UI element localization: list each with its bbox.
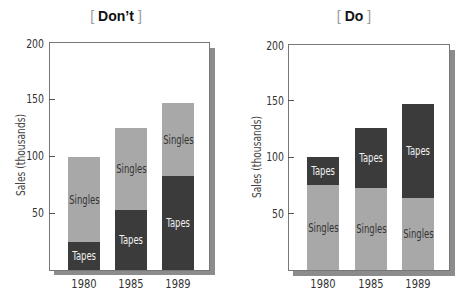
segment-tapes: Tapes (307, 157, 339, 185)
segment-singles: Singles (402, 198, 434, 270)
bar-1980: Singles Tapes (68, 157, 100, 270)
y-tick-150: 150 (20, 92, 44, 106)
y-tick-mark (288, 213, 294, 214)
y-tick-150: 150 (260, 94, 284, 108)
chart-dont: [Don’t] Sales (thousands) 200 150 100 50… (0, 0, 232, 301)
bar-1989: Singles Tapes (162, 103, 194, 270)
y-tick-mark (49, 99, 55, 100)
bar-1985: Tapes Singles (355, 128, 387, 270)
segment-tapes: Tapes (402, 104, 434, 198)
segment-tapes: Tapes (162, 176, 194, 270)
y-tick-mark (49, 156, 55, 157)
y-tick-100: 100 (20, 149, 44, 163)
segment-singles: Singles (115, 128, 147, 210)
y-tick-mark (288, 157, 294, 158)
bar-1985: Singles Tapes (115, 128, 147, 270)
y-tick-mark (49, 213, 55, 214)
x-tick-1980: 1980 (67, 276, 101, 291)
segment-singles: Singles (355, 188, 387, 270)
x-tick-1985: 1985 (114, 276, 148, 291)
x-tick-1989: 1989 (401, 276, 435, 291)
x-tick-1980: 1980 (306, 276, 340, 291)
y-tick-mark (288, 100, 294, 101)
bar-1980: Tapes Singles (307, 157, 339, 270)
title-text: Don’t (98, 8, 134, 24)
segment-singles: Singles (68, 157, 100, 242)
x-tick-1985: 1985 (354, 276, 388, 291)
chart-title-do: [Do] (238, 8, 464, 24)
segment-tapes: Tapes (355, 128, 387, 188)
y-tick-200: 200 (260, 39, 284, 53)
chart-title-dont: [Don’t] (0, 8, 232, 24)
segment-tapes: Tapes (115, 210, 147, 270)
chart-do: [Do] Sales (thousands) 200 150 100 50 Ta… (232, 0, 464, 301)
segment-singles: Singles (307, 185, 339, 270)
title-text: Do (345, 8, 364, 24)
y-tick-200: 200 (20, 37, 44, 51)
segment-tapes: Tapes (68, 242, 100, 270)
bar-1989: Tapes Singles (402, 104, 434, 270)
y-tick-100: 100 (260, 150, 284, 164)
y-tick-50: 50 (260, 207, 284, 221)
y-tick-50: 50 (20, 206, 44, 220)
x-tick-1989: 1989 (161, 276, 195, 291)
segment-singles: Singles (162, 103, 194, 176)
